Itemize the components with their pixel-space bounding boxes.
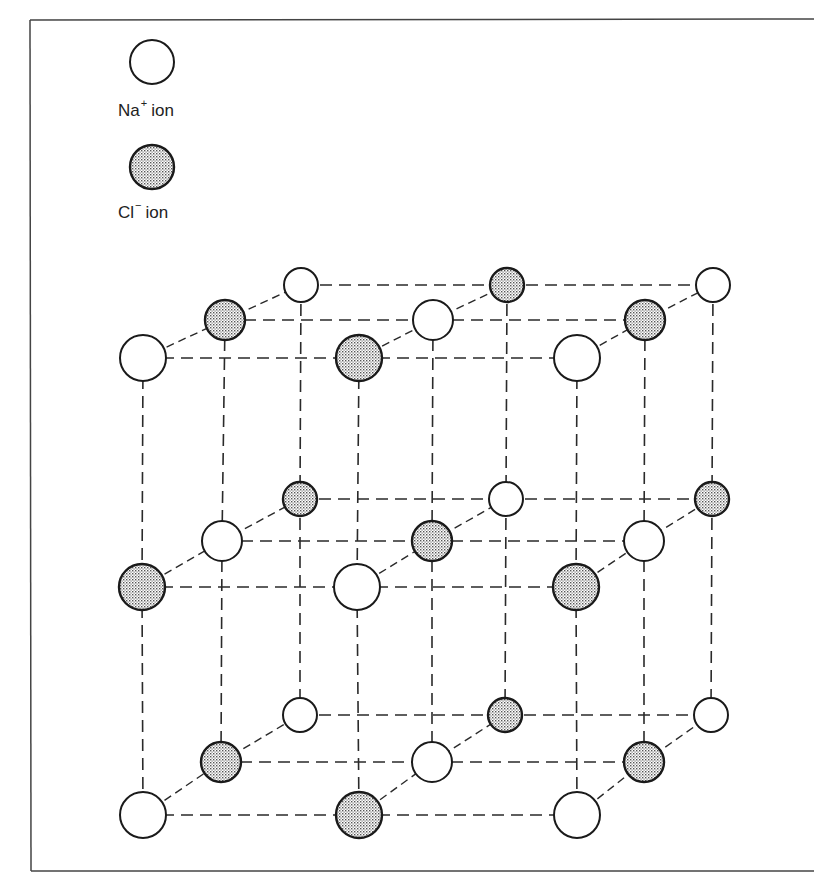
chloride-ion-atom [490, 268, 524, 302]
sodium-ion-atom [120, 792, 166, 838]
chloride-ion-atom [283, 482, 317, 516]
chloride-ion-atom [625, 300, 665, 340]
bond-line [432, 320, 433, 541]
bond-line [576, 358, 577, 587]
bond-line [300, 285, 301, 499]
sodium-ion-atom [413, 300, 453, 340]
sodium-ion-atom [694, 698, 728, 732]
bond-line [142, 358, 143, 587]
chloride-ion-charge: − [135, 199, 141, 211]
chloride-ion-atom [201, 742, 241, 782]
legend-label-sodium: Na+ion [118, 99, 174, 121]
chloride-ion-atom [119, 564, 165, 610]
chloride-ion-suffix: ion [146, 203, 169, 222]
sodium-ion-atom [284, 268, 318, 302]
bond-line [576, 587, 577, 815]
bond-line [142, 587, 143, 815]
chloride-ion-atom [336, 335, 382, 381]
sodium-ion-atom [412, 742, 452, 782]
sodium-ion-atom [489, 482, 523, 516]
bond-line [357, 358, 359, 587]
chloride-ion-atom [695, 482, 729, 516]
bond-line [221, 541, 222, 762]
bond-line [222, 320, 225, 541]
sodium-ion-atom [554, 335, 600, 381]
lattice-diagram [0, 0, 814, 889]
lattice-atoms [119, 268, 730, 838]
chloride-ion-atom [488, 698, 522, 732]
sodium-ion-atom [202, 521, 242, 561]
chloride-ion-atom [553, 564, 599, 610]
chloride-ion-atom [205, 300, 245, 340]
sodium-ion-atom [696, 268, 730, 302]
chloride-ion-atom [336, 792, 382, 838]
sodium-ion-atom [120, 335, 166, 381]
bond-line [505, 499, 506, 715]
bond-line [711, 499, 712, 715]
sodium-ion-charge: + [141, 97, 147, 109]
sodium-ion-atom [624, 521, 664, 561]
bond-line [712, 285, 713, 499]
sodium-ion-legend-icon [130, 40, 174, 84]
chloride-ion-atom [412, 521, 452, 561]
chloride-ion-legend-icon [130, 145, 174, 189]
sodium-ion-atom [283, 698, 317, 732]
chloride-ion-symbol: Cl [118, 203, 134, 222]
sodium-ion-symbol: Na [118, 101, 140, 120]
bond-line [644, 320, 645, 541]
sodium-ion-atom [334, 564, 380, 610]
legend-label-chloride: Cl−ion [118, 201, 168, 223]
sodium-ion-atom [554, 792, 600, 838]
sodium-ion-suffix: ion [151, 101, 174, 120]
bond-line [506, 285, 507, 499]
chloride-ion-atom [624, 742, 664, 782]
bond-line [357, 587, 359, 815]
